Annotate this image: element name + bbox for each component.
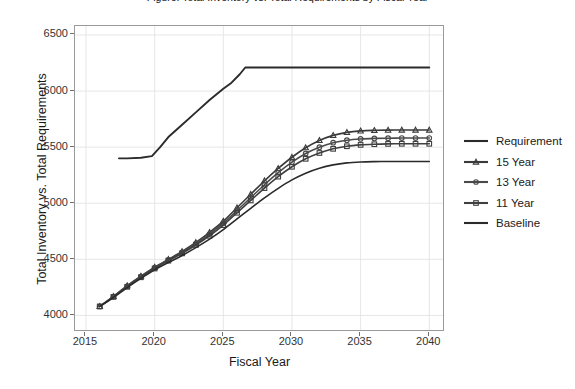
y-tick-6500: 6500 [28, 28, 68, 39]
legend-item-baseline[interactable]: Baseline [463, 213, 571, 234]
y-tick-mark [70, 146, 74, 147]
x-tick-mark [84, 332, 85, 336]
y-tick-5500: 5500 [28, 141, 68, 152]
legend-key-triangle-icon [463, 153, 489, 171]
legend-key-circle-icon [463, 173, 489, 191]
y-tick-5000: 5000 [28, 197, 68, 208]
x-tick-mark [222, 332, 223, 336]
x-tick-2015: 2015 [60, 336, 110, 347]
legend-item-15-year[interactable]: 15 Year [463, 152, 571, 173]
x-axis-label: Fiscal Year [74, 355, 445, 369]
x-tick-mark [359, 332, 360, 336]
chart-legend: Requirement15 Year13 Year11 YearBaseline [463, 131, 571, 234]
legend-key-square-icon [463, 194, 489, 212]
x-axis-tick-labels: 201520202025203020352040 [0, 336, 575, 352]
x-tick-2025: 2025 [197, 336, 247, 347]
legend-label: 11 Year [496, 197, 534, 209]
series-15-year [97, 127, 432, 308]
y-tick-4000: 4000 [28, 309, 68, 320]
legend-label: 13 Year [496, 176, 535, 188]
y-axis-tick-labels: 400045005000550060006500 [26, 0, 68, 389]
legend-item-13-year[interactable]: 13 Year [463, 172, 571, 193]
plot-panel [74, 25, 444, 331]
legend-label: 15 Year [496, 156, 535, 168]
y-tick-mark [70, 90, 74, 91]
legend-label: Requirement [496, 135, 562, 147]
x-tick-mark [428, 332, 429, 336]
y-tick-mark [70, 314, 74, 315]
plot-svg [75, 26, 443, 330]
y-tick-6000: 6000 [28, 85, 68, 96]
y-tick-mark [70, 258, 74, 259]
x-tick-mark [153, 332, 154, 336]
y-tick-4500: 4500 [28, 253, 68, 264]
cropped-title: Figure: Total Inventory vs. Total Requir… [0, 0, 575, 3]
x-tick-2035: 2035 [335, 336, 385, 347]
legend-item-11-year[interactable]: 11 Year [463, 193, 571, 214]
legend-item-requirement[interactable]: Requirement [463, 131, 571, 152]
y-tick-mark [70, 202, 74, 203]
x-tick-2040: 2040 [403, 336, 453, 347]
legend-key-none-icon [463, 214, 489, 232]
y-tick-mark [70, 33, 74, 34]
legend-label: Baseline [496, 217, 540, 229]
x-tick-mark [290, 332, 291, 336]
series-11-year [97, 141, 431, 308]
x-tick-2030: 2030 [266, 336, 316, 347]
legend-key-none-icon [463, 132, 489, 150]
x-tick-2020: 2020 [129, 336, 179, 347]
chart-figure: Figure: Total Inventory vs. Total Requir… [0, 0, 575, 389]
